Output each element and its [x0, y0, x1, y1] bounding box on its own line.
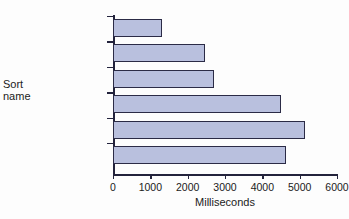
bar-insertion — [113, 44, 205, 62]
bar-rect — [113, 44, 205, 62]
y-tick-mark — [107, 41, 114, 42]
y-tick-mark — [107, 92, 114, 93]
bar-rect — [113, 121, 305, 139]
bar-flag-bubble — [113, 121, 305, 139]
x-tick-mark — [262, 174, 263, 179]
x-tick-label: 3000 — [205, 181, 245, 193]
bar-modified-sel — [113, 70, 214, 88]
x-tick-label: 4000 — [242, 181, 282, 193]
x-tick-label: 2000 — [168, 181, 208, 193]
clipped-chart-title — [148, 0, 258, 5]
y-axis-title: Sort name — [3, 78, 47, 102]
bar-selection — [113, 95, 281, 113]
bar-bubble — [113, 146, 286, 164]
x-tick-mark — [337, 174, 338, 179]
x-tick-mark — [225, 174, 226, 179]
x-tick-mark — [150, 174, 151, 179]
y-tick-mark — [107, 143, 114, 144]
x-tick-mark — [113, 174, 114, 179]
x-tick-label: 5000 — [280, 181, 320, 193]
bar-rect — [113, 95, 281, 113]
x-tick-mark — [188, 174, 189, 179]
bar-chart-figure: Sort name Binary ins.InsertionModified s… — [0, 0, 349, 219]
y-tick-mark — [107, 67, 114, 68]
bar-rect — [113, 70, 214, 88]
bar-rect — [113, 19, 162, 37]
bar-binary-ins — [113, 19, 162, 37]
x-tick-label: 6000 — [317, 181, 349, 193]
y-tick-mark — [107, 118, 114, 119]
y-tick-mark — [107, 16, 114, 17]
x-tick-label: 0 — [93, 181, 133, 193]
bar-rect — [113, 146, 286, 164]
x-tick-label: 1000 — [130, 181, 170, 193]
x-tick-mark — [300, 174, 301, 179]
x-axis-title: Milliseconds — [113, 196, 337, 208]
